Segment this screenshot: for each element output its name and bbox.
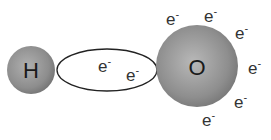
oxygen-atom: O [156, 25, 238, 107]
lone-electron: e- [166, 8, 179, 29]
shared-electron-bond: e- e- [57, 49, 157, 91]
oxygen-label: O [188, 55, 205, 80]
lone-electron: e- [202, 109, 215, 130]
lone-electron: e- [248, 57, 261, 78]
hydrogen-atom: H [7, 46, 55, 94]
hydrogen-label: H [23, 58, 39, 83]
h-o-bond-diagram: H e- e- O e- e- e- e- e- e- [0, 0, 271, 140]
lone-electron: e- [204, 5, 217, 26]
lone-electron: e- [234, 91, 247, 112]
lone-electron: e- [235, 22, 248, 43]
